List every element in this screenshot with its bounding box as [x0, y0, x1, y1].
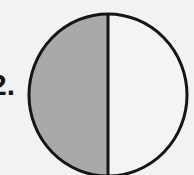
circle-fraction-diagram	[0, 0, 194, 175]
fraction-figure-stage: 2.	[0, 0, 194, 175]
